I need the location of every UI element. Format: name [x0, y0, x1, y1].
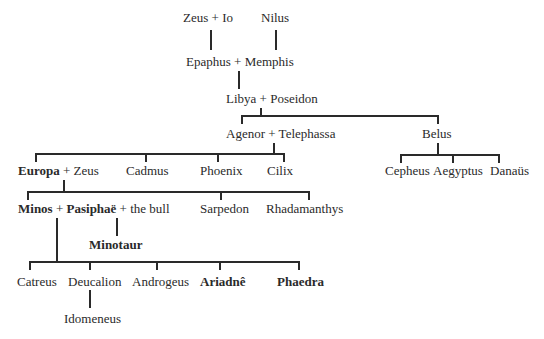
node-epaphus: Epaphus: [186, 54, 231, 69]
couple-europa-zeus: Europa + Zeus: [18, 164, 99, 178]
connector-belus-children-bar: [400, 154, 499, 156]
connector-europa-drop: [63, 180, 65, 191]
node-aegyptus: Aegyptus: [433, 164, 483, 178]
couple-zeus-io: Zeus + Io: [183, 11, 233, 25]
node-ariadne: Ariadnê: [200, 275, 246, 289]
connector-nilus-to-memphis: [275, 30, 277, 50]
node-cadmus: Cadmus: [126, 164, 169, 178]
node-telephassa: Telephassa: [279, 126, 336, 141]
connector-libya-children-bar: [241, 115, 439, 117]
node-deucalion: Deucalion: [68, 275, 121, 289]
connector-to-phaedra: [298, 261, 300, 270]
node-minos: Minos: [18, 201, 53, 216]
plus-sign: +: [260, 91, 267, 106]
connector-to-sarpedon: [220, 191, 222, 200]
node-sarpedon: Sarpedon: [200, 202, 249, 216]
node-rhadamanthys: Rhadamanthys: [266, 202, 343, 216]
plus-sign: +: [120, 201, 127, 216]
connector-epaphus-to-libya: [238, 71, 240, 89]
connector-agenor-children-bar: [35, 153, 284, 155]
connector-to-minos: [27, 191, 29, 200]
connector-to-danaus: [498, 154, 500, 163]
node-memphis: Memphis: [245, 54, 294, 69]
node-io: Io: [222, 10, 233, 25]
connector-to-cadmus: [145, 153, 147, 162]
connector-to-europa: [35, 153, 37, 162]
node-pasiphae: Pasiphaë: [67, 201, 117, 216]
node-cepheus: Cepheus: [385, 164, 430, 178]
node-libya: Libya: [226, 91, 256, 106]
node-zeus: Zeus: [183, 10, 208, 25]
couple-minos-pasiphae-bull: Minos + Pasiphaë + the bull: [18, 202, 170, 216]
connector-to-androgeus: [156, 261, 158, 270]
connector-belus-drop: [437, 143, 439, 154]
node-androgeus: Androgeus: [132, 275, 189, 289]
node-cilix: Cilix: [267, 164, 293, 178]
connector-bull-to-minotaur: [116, 218, 118, 236]
node-phaedra: Phaedra: [277, 275, 324, 289]
connector-to-ariadne: [219, 261, 221, 270]
node-catreus: Catreus: [17, 275, 57, 289]
connector-zeus-io-to-epaphus: [210, 30, 212, 50]
node-poseidon: Poseidon: [270, 91, 318, 106]
node-zeus: Zeus: [74, 163, 99, 178]
node-nilus: Nilus: [261, 11, 289, 25]
node-agenor: Agenor: [226, 126, 265, 141]
connector-agenor-drop: [273, 143, 275, 153]
connector-to-agenor: [241, 115, 243, 124]
couple-libya-poseidon: Libya + Poseidon: [226, 92, 318, 106]
connector-to-cepheus: [400, 154, 402, 163]
plus-sign: +: [56, 201, 63, 216]
node-the-bull: the bull: [130, 201, 169, 216]
node-belus: Belus: [422, 127, 452, 141]
couple-agenor-telephassa: Agenor + Telephassa: [226, 127, 335, 141]
connector-deucalion-to-idomeneus: [89, 290, 91, 308]
plus-sign: +: [268, 126, 275, 141]
plus-sign: +: [212, 10, 219, 25]
node-europa: Europa: [18, 163, 60, 178]
connector-to-rhadamanthys: [308, 191, 310, 200]
connector-to-belus: [437, 115, 439, 124]
connector-to-cilix: [283, 153, 285, 162]
node-danaus: Danaüs: [490, 164, 529, 178]
connector-minos-children-bar: [29, 261, 299, 263]
connector-libya-drop: [260, 108, 262, 115]
node-minotaur: Minotaur: [89, 238, 142, 252]
connector-to-deucalion: [89, 261, 91, 270]
connector-europa-children-bar: [27, 191, 309, 193]
connector-to-catreus: [29, 261, 31, 270]
couple-epaphus-memphis: Epaphus + Memphis: [186, 55, 294, 69]
plus-sign: +: [63, 163, 70, 178]
node-idomeneus: Idomeneus: [64, 312, 121, 326]
plus-sign: +: [234, 54, 241, 69]
connector-minos-drop: [56, 218, 58, 261]
node-phoenix: Phoenix: [200, 164, 243, 178]
connector-to-phoenix: [217, 153, 219, 162]
connector-to-aegyptus: [452, 154, 454, 163]
